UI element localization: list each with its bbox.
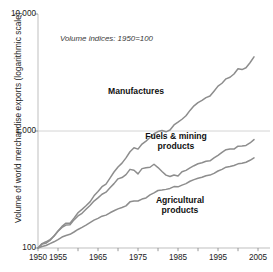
y-tick-label: 10,000 (11, 9, 36, 18)
series-label-3: Agriculturalproducts (156, 196, 204, 215)
x-tick-label: 1985 (169, 253, 187, 262)
x-tick-label: 1955 (49, 253, 67, 262)
chart-annotation: Volume indices: 1950=100 (60, 34, 153, 43)
x-tick-label: 1995 (209, 253, 227, 262)
series-label-1: Manufactures (108, 87, 164, 96)
x-tick-label: 1950 (29, 253, 47, 262)
series-line-3 (38, 158, 254, 248)
series-line-2 (38, 140, 254, 248)
x-tick-label: 2005 (249, 253, 267, 262)
y-tick-label: 100 (22, 243, 36, 252)
y-tick-label: 1,000 (16, 126, 37, 135)
chart-container: Volume of world merchandise exports (log… (0, 0, 273, 272)
series-label-2: Fuels & miningproducts (145, 132, 207, 151)
x-tick-label: 1975 (129, 253, 147, 262)
x-tick-label: 1965 (89, 253, 107, 262)
